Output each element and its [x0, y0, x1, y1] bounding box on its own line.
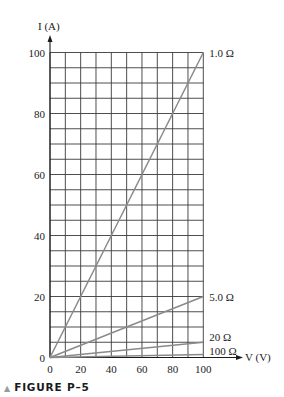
y-tick-label: 80	[34, 108, 46, 120]
series-label: 100 Ω	[209, 345, 236, 357]
y-tick-label: 20	[34, 291, 46, 303]
caption-text: FIGURE P–5	[14, 381, 89, 393]
tick-labels: 020406080100020406080100	[29, 47, 213, 375]
y-tick-label: 40	[34, 230, 46, 242]
axes	[48, 35, 244, 360]
caption-marker-icon: ▲	[4, 384, 10, 393]
series-label: 1.0 Ω	[209, 47, 234, 59]
x-tick-label: 80	[167, 363, 179, 375]
x-axis-arrow-icon	[236, 355, 243, 360]
y-tick-label: 60	[34, 169, 46, 181]
series-labels: 1.0 Ω5.0 Ω20 Ω100 Ω	[209, 47, 236, 358]
x-tick-label: 100	[195, 363, 212, 375]
iv-chart: 020406080100020406080100 1.0 Ω5.0 Ω20 Ω1…	[0, 0, 284, 378]
figure-caption: ▲FIGURE P–5	[4, 381, 90, 393]
x-axis-label: V (V)	[245, 351, 271, 364]
series-label: 5.0 Ω	[209, 291, 234, 303]
x-tick-label: 40	[106, 363, 118, 375]
series-label: 20 Ω	[209, 331, 231, 343]
y-tick-label: 0	[40, 352, 46, 364]
y-axis-arrow-icon	[48, 35, 53, 42]
y-tick-label: 100	[29, 47, 46, 59]
x-tick-label: 0	[47, 363, 53, 375]
y-axis-label: I (A)	[38, 20, 60, 33]
x-tick-label: 60	[136, 363, 148, 375]
x-tick-label: 20	[75, 363, 87, 375]
